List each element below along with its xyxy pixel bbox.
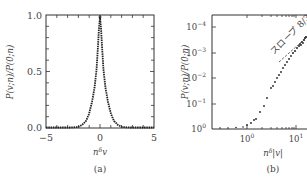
ytick-b-1e-4: 10−4 — [186, 20, 206, 32]
panel-a: 1.0 0.5 0.0 −5 0 5 nδv P(v;n)/P(0;n) (a) — [0, 0, 160, 184]
plot-frame-a — [46, 15, 154, 128]
xtick-a-neg5: −5 — [39, 132, 53, 143]
peak-marker-a — [99, 15, 102, 19]
slope-annotation: スロープ 8/3 — [268, 12, 307, 56]
panel-b-chart: スロープ 8/3 10−4 10−3 10−2 10−1 100 100 101… — [150, 0, 307, 184]
ytick-a-05: 0.5 — [27, 66, 42, 77]
gaussian-series-a — [46, 17, 154, 128]
xtick-b-1e1: 101 — [289, 132, 304, 144]
panel-a-chart: 1.0 0.5 0.0 −5 0 5 nδv P(v;n)/P(0;n) (a) — [0, 0, 160, 184]
scatter-series-b — [219, 36, 307, 129]
ylabel-a: P(v;n)/P(0;n) — [5, 45, 15, 100]
xlabel-b: nδ|v| — [263, 147, 283, 159]
xtick-a-0: 0 — [97, 132, 103, 143]
ytick-a-1: 1.0 — [27, 10, 42, 21]
caption-a: (a) — [94, 164, 106, 174]
ytick-b-1e0: 100 — [191, 122, 206, 134]
ticks-b — [212, 15, 296, 129]
panel-b: スロープ 8/3 10−4 10−3 10−2 10−1 100 100 101… — [150, 0, 307, 184]
ylabel-b: P(v;n)/P(0;n) — [180, 45, 190, 100]
caption-b: (b) — [267, 164, 280, 174]
xtick-b-1e0: 100 — [240, 132, 255, 144]
ticks-a — [46, 15, 154, 128]
xlabel-a: nδv — [93, 146, 107, 157]
